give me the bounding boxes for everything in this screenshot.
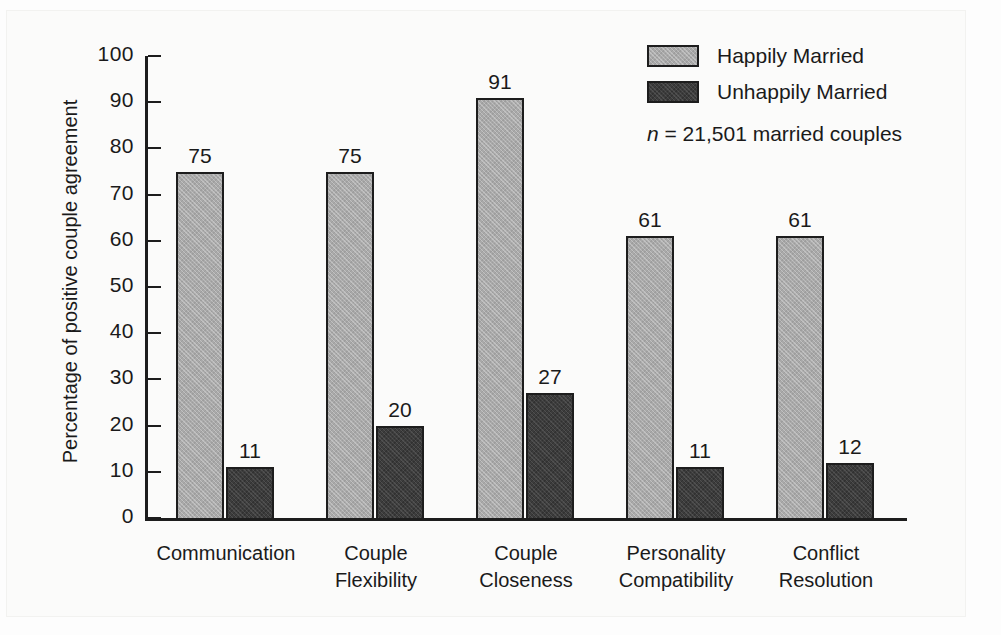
bar-happily-married <box>176 172 224 521</box>
category-label-line: Conflict <box>731 540 921 567</box>
bar-unhappily-married <box>226 467 274 520</box>
y-tick-label: 50 <box>66 273 134 297</box>
y-tick-label: 40 <box>66 319 134 343</box>
y-tick-mark <box>148 147 161 149</box>
y-tick-mark <box>148 101 161 103</box>
legend-label-unhappily-married: Unhappily Married <box>717 80 887 104</box>
y-tick-mark <box>148 286 161 288</box>
y-tick-label: 80 <box>66 134 134 158</box>
y-axis-line <box>145 56 148 521</box>
y-tick-mark <box>148 425 161 427</box>
sample-size-annotation: n = 21,501 married couples <box>647 122 902 146</box>
legend-item-unhappily-married: Unhappily Married <box>647 80 902 104</box>
legend-item-happily-married: Happily Married <box>647 44 902 68</box>
y-tick-mark <box>148 471 161 473</box>
y-tick-label: 70 <box>66 181 134 205</box>
y-tick-mark <box>148 378 161 380</box>
y-tick-mark <box>148 240 161 242</box>
y-tick-mark <box>148 332 161 334</box>
bar-unhappily-married <box>826 463 874 520</box>
bar-value-label: 75 <box>320 144 380 168</box>
bar-value-label: 20 <box>370 398 430 422</box>
bar-value-label: 27 <box>520 365 580 389</box>
bar-value-label: 11 <box>670 439 730 463</box>
bar-unhappily-married <box>676 467 724 520</box>
y-tick-label: 10 <box>66 458 134 482</box>
y-tick-mark <box>148 55 161 57</box>
bar-value-label: 61 <box>770 208 830 232</box>
sample-size-text: = 21,501 married couples <box>659 122 902 145</box>
bar-happily-married <box>476 98 524 520</box>
legend-swatch-happily-married <box>647 45 699 67</box>
legend-swatch-unhappily-married <box>647 81 699 103</box>
x-axis-category-label: ConflictResolution <box>731 540 921 594</box>
bar-value-label: 91 <box>470 70 530 94</box>
sample-size-symbol: n <box>647 122 659 145</box>
y-tick-mark <box>148 194 161 196</box>
bar-unhappily-married <box>376 426 424 520</box>
legend-label-happily-married: Happily Married <box>717 44 864 68</box>
y-tick-label: 60 <box>66 227 134 251</box>
bar-value-label: 61 <box>620 208 680 232</box>
bar-unhappily-married <box>526 393 574 520</box>
chart-page: Percentage of positive couple agreement … <box>0 0 1001 635</box>
bar-value-label: 11 <box>220 439 280 463</box>
bar-happily-married <box>776 236 824 520</box>
bar-value-label: 75 <box>170 144 230 168</box>
chart-legend: Happily Married Unhappily Married n = 21… <box>647 44 902 146</box>
y-tick-mark <box>148 517 161 519</box>
bar-value-label: 12 <box>820 435 880 459</box>
bar-happily-married <box>326 172 374 521</box>
category-label-line: Resolution <box>731 567 921 594</box>
y-tick-label: 90 <box>66 88 134 112</box>
y-tick-label: 20 <box>66 412 134 436</box>
bar-chart-plot: Percentage of positive couple agreement … <box>0 0 1001 635</box>
bar-happily-married <box>626 236 674 520</box>
y-tick-label: 0 <box>66 504 134 528</box>
y-tick-label: 100 <box>66 42 134 66</box>
y-tick-label: 30 <box>66 365 134 389</box>
